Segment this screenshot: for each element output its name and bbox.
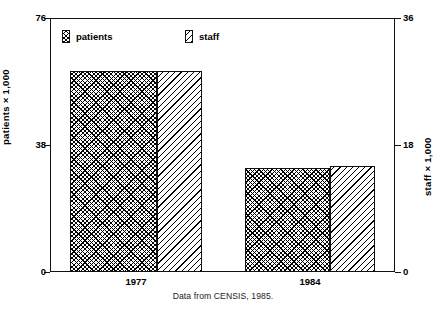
left-axis-title: patients × 1,000 (0, 69, 11, 145)
legend-item-staff: staff (185, 30, 219, 43)
category-label-1977: 1977 (96, 276, 176, 287)
category-label-1984: 1984 (270, 276, 350, 287)
right-axis-title: staff × 1,000 (422, 137, 433, 196)
bar-staff-1984 (330, 166, 375, 273)
legend-label-staff: staff (199, 32, 219, 42)
legend-swatch-patients-icon (62, 30, 70, 43)
legend-label-patients: patients (76, 32, 112, 42)
left-axis-label-top: 76 (35, 13, 46, 23)
right-axis-label-bottom: 0 (403, 267, 408, 277)
bar-patients-1984 (245, 168, 330, 272)
right-axis-label-mid: 18 (403, 140, 414, 150)
legend-item-patients: patients (62, 30, 112, 43)
right-axis-tick-18 (395, 145, 401, 146)
left-axis-label-mid: 38 (35, 140, 46, 150)
figure-caption: Data from CENSIS, 1985. (0, 291, 446, 301)
left-axis-label-bottom: 0 (41, 267, 46, 277)
right-axis-tick-36 (395, 18, 401, 19)
right-axis-label-top: 36 (403, 13, 414, 23)
legend-swatch-staff-icon (185, 30, 193, 43)
right-axis-tick-0 (395, 272, 401, 273)
bar-chart-figure: 76 38 0 36 18 0 patients × 1,000 staff ×… (0, 0, 446, 310)
bar-staff-1977 (157, 71, 202, 272)
bar-patients-1977 (70, 71, 157, 272)
